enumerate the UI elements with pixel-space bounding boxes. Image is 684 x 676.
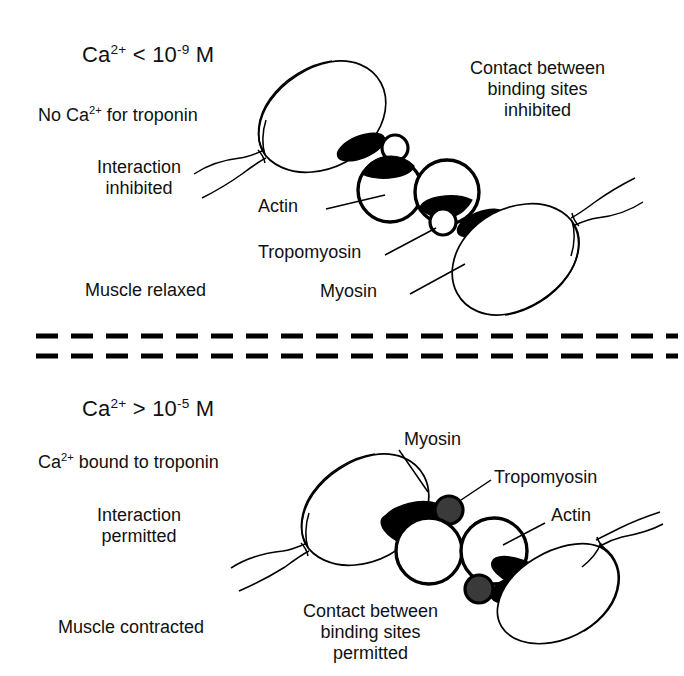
myosin-tail-upper-left: [194, 150, 266, 198]
troponin-lower-contracted: [465, 575, 493, 603]
leader-line-tropomyosin-top: [385, 228, 436, 255]
heading-charge: 2+: [111, 396, 127, 411]
relaxed-muscle-state-label: Muscle relaxed: [85, 280, 206, 301]
troponin-state-charge: 2+: [89, 104, 102, 116]
interaction-line-1: Interaction: [97, 505, 181, 526]
contracted-interaction-state-label: Interactionpermitted: [97, 505, 181, 547]
heading-exponent: -9: [177, 42, 190, 57]
troponin-state-prefix: Ca: [38, 452, 61, 472]
troponin-lower: [430, 209, 456, 235]
contact-line-3: inhibited: [470, 100, 605, 121]
relaxed-callout-tropomyosin: Tropomyosin: [258, 242, 361, 263]
contracted-troponin-state-label: Ca2+ bound to troponin: [38, 452, 219, 473]
contracted-muscle-state-label: Muscle contracted: [58, 617, 204, 638]
panel-relaxed-heading: Ca2+ < 10-9 M: [82, 42, 214, 68]
troponin-state-suffix: for troponin: [102, 105, 198, 125]
panel-divider: [36, 336, 678, 356]
heading-exponent: -5: [177, 396, 190, 411]
leader-line-tropomyosin-bottom: [461, 480, 491, 500]
interaction-line-2: permitted: [97, 526, 181, 547]
interaction-line-2: inhibited: [97, 178, 181, 199]
actin-circle-left-contracted: [396, 518, 462, 584]
relaxed-interaction-state-label: Interactioninhibited: [97, 157, 181, 199]
relaxed-contact-state-label: Contact betweenbinding sitesinhibited: [470, 58, 605, 122]
contracted-callout-tropomyosin: Tropomyosin: [494, 467, 597, 488]
contact-line-3: permitted: [303, 643, 438, 664]
heading-unit: M: [190, 396, 215, 421]
relaxed-troponin-state-label: No Ca2+ for troponin: [38, 105, 198, 126]
heading-prefix: Ca: [82, 396, 111, 421]
contact-line-1: Contact between: [303, 601, 438, 622]
heading-charge: 2+: [111, 42, 127, 57]
contact-line-2: binding sites: [470, 79, 605, 100]
troponin-state-charge: 2+: [61, 451, 74, 463]
myosin-tail-lower-right: [571, 178, 643, 226]
troponin-state-prefix: No Ca: [38, 105, 89, 125]
interaction-line-1: Interaction: [97, 157, 181, 178]
myosin-tail-upper-left-contracted: [231, 543, 309, 591]
heading-prefix: Ca: [82, 42, 111, 67]
contact-line-2: binding sites: [303, 622, 438, 643]
troponin-state-suffix: bound to troponin: [74, 452, 219, 472]
heading-unit: M: [190, 42, 215, 67]
panel-contracted-graphic: [231, 450, 663, 644]
contracted-contact-state-label: Contact betweenbinding sitespermitted: [303, 601, 438, 665]
myosin-tail-lower-right-contracted: [596, 512, 663, 548]
contracted-callout-myosin: Myosin: [404, 429, 461, 450]
relaxed-callout-actin: Actin: [258, 196, 298, 217]
heading-relation: > 10: [126, 396, 177, 421]
heading-relation: < 10: [126, 42, 177, 67]
contracted-callout-actin: Actin: [551, 505, 591, 526]
relaxed-callout-myosin: Myosin: [320, 281, 377, 302]
contact-line-1: Contact between: [470, 58, 605, 79]
panel-contracted-heading: Ca2+ > 10-5 M: [82, 396, 214, 422]
